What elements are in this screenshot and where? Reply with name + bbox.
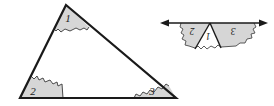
- angle-1-copy-label: 1: [206, 31, 211, 41]
- left-triangle-group: 1 2 3: [20, 5, 176, 98]
- arrowhead-left-icon: [160, 20, 169, 27]
- figure-canvas: 1 2 3 2 1 3: [0, 0, 274, 106]
- angle-3-label: 3: [148, 85, 155, 97]
- angle-2-copy-label: 2: [189, 26, 194, 36]
- angle-1-label: 1: [65, 12, 71, 24]
- angle-2-label: 2: [30, 85, 36, 97]
- geometry-figure: 1 2 3 2 1 3: [0, 0, 274, 106]
- right-line-group: 2 1 3: [160, 20, 268, 50]
- arrowhead-right-icon: [259, 20, 268, 27]
- angle-3-copy-label: 3: [230, 26, 236, 36]
